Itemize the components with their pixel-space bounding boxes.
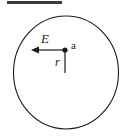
label-E: E <box>40 31 49 46</box>
boundary-circle-shape <box>14 16 119 129</box>
label-a: a <box>71 39 76 51</box>
figure-container: E r a <box>0 0 127 138</box>
physics-diagram: E r a <box>0 0 127 138</box>
field-arrow-head <box>31 47 39 54</box>
point-a-dot <box>62 47 67 52</box>
label-r: r <box>55 55 60 69</box>
